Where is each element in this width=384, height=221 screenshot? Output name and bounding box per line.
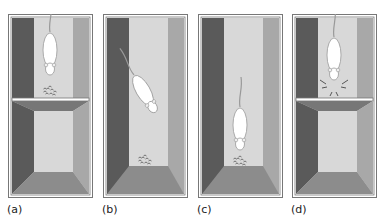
panel-label-a: (a)	[7, 203, 22, 216]
left-wall	[296, 18, 318, 98]
panel-a	[8, 14, 93, 198]
platform-edge	[12, 98, 89, 101]
panel-label-c: (c)	[197, 203, 212, 216]
rat-body	[327, 38, 341, 72]
right-wall	[168, 18, 184, 194]
panel-label-d: (d)	[291, 203, 307, 216]
rat-ear	[52, 63, 56, 67]
box-illustration	[198, 14, 283, 198]
rat-body	[43, 33, 57, 67]
right-wall	[73, 18, 89, 98]
platform-edge	[296, 98, 373, 101]
box-illustration	[8, 14, 93, 198]
left-wall	[107, 18, 129, 194]
rat-ear	[336, 68, 340, 72]
left-wall	[12, 18, 34, 98]
panel-b	[103, 14, 188, 198]
box-illustration	[103, 14, 188, 198]
panel-c	[198, 14, 283, 198]
rat-ear	[234, 138, 238, 142]
panel-d	[292, 14, 377, 198]
box-illustration	[292, 14, 377, 198]
rat-body	[233, 108, 247, 142]
right-wall	[263, 18, 279, 194]
right-wall	[357, 18, 373, 98]
rat-ear	[44, 63, 48, 67]
rat-ear	[328, 68, 332, 72]
left-wall	[202, 18, 224, 194]
panel-label-b: (b)	[102, 203, 118, 216]
rat-ear	[242, 138, 246, 142]
